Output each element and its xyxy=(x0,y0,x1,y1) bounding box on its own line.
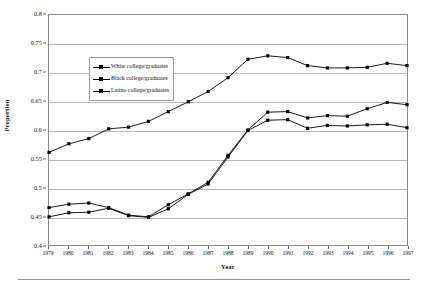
data-point-marker xyxy=(47,215,50,218)
x-axis-tick-label: 1981 xyxy=(82,251,93,257)
series-latino xyxy=(47,101,408,219)
x-axis-tick-label: 1992 xyxy=(302,251,313,257)
data-point-marker xyxy=(67,211,70,214)
x-axis-tick-mark xyxy=(188,246,189,249)
y-axis-tick-label: 0.5 xyxy=(34,185,42,191)
data-point-marker xyxy=(306,64,309,67)
x-axis-tick-mark xyxy=(208,246,209,249)
plot-area: White college/graduates Black college/gr… xyxy=(48,14,408,246)
legend-item-black: Black college/graduates xyxy=(93,73,169,85)
data-point-marker xyxy=(67,203,70,206)
data-point-marker xyxy=(346,115,349,118)
data-point-marker xyxy=(107,127,110,130)
x-axis-tick-label: 1985 xyxy=(162,251,173,257)
x-axis-tick-mark xyxy=(128,246,129,249)
data-point-marker xyxy=(286,118,289,121)
data-point-marker xyxy=(266,111,269,114)
y-axis-tick-label: 0.45 xyxy=(31,214,42,220)
x-axis-tick-mark xyxy=(348,246,349,249)
data-point-marker xyxy=(405,64,408,67)
data-point-marker xyxy=(246,58,249,61)
data-point-marker xyxy=(366,123,369,126)
data-point-marker xyxy=(226,76,229,79)
data-point-marker xyxy=(405,126,408,129)
legend-item-white: White college/graduates xyxy=(93,61,169,73)
legend-label: Black college/graduates xyxy=(110,76,167,82)
series-line xyxy=(49,120,407,218)
y-axis-tick-label: 0.6 xyxy=(34,127,42,133)
x-axis-tick-label: 1984 xyxy=(142,251,153,257)
x-axis-tick-group: 1979198019811982198319841985198619871988… xyxy=(48,246,408,262)
x-axis-tick-mark xyxy=(48,246,49,249)
y-axis-tick-mark xyxy=(43,130,46,131)
y-axis-tick-label: 0.4 xyxy=(34,243,42,249)
x-axis-tick-mark xyxy=(168,246,169,249)
y-axis-tick-label: 0.8 xyxy=(34,11,42,17)
data-point-marker xyxy=(246,128,249,131)
series-black xyxy=(47,118,408,219)
data-point-marker xyxy=(107,206,110,209)
chart-figure: Proportion 0.40.450.50.550.60.650.70.750… xyxy=(0,0,425,289)
y-axis-tick-group: 0.40.450.50.550.60.650.70.750.8 xyxy=(0,14,46,246)
data-point-marker xyxy=(67,142,70,145)
data-point-marker xyxy=(127,214,130,217)
x-axis-tick-mark xyxy=(328,246,329,249)
x-axis-tick-label: 1982 xyxy=(102,251,113,257)
series-line xyxy=(49,102,407,216)
x-axis-tick-label: 1983 xyxy=(122,251,133,257)
x-axis-tick-mark xyxy=(88,246,89,249)
y-axis-tick-mark xyxy=(43,188,46,189)
data-point-marker xyxy=(87,211,90,214)
data-point-marker xyxy=(47,206,50,209)
legend-marker-icon xyxy=(93,75,110,84)
data-point-marker xyxy=(306,127,309,130)
x-axis-tick-mark xyxy=(68,246,69,249)
legend-marker-icon xyxy=(93,63,110,72)
data-point-marker xyxy=(87,137,90,140)
x-axis-tick-mark xyxy=(388,246,389,249)
x-axis-tick-label: 1994 xyxy=(342,251,353,257)
data-point-marker xyxy=(266,119,269,122)
x-axis-tick-mark xyxy=(288,246,289,249)
x-axis-tick-label: 1997 xyxy=(402,251,413,257)
y-axis-tick-mark xyxy=(43,43,46,44)
y-axis-tick-mark xyxy=(43,72,46,73)
data-point-marker xyxy=(187,100,190,103)
x-axis-tick-mark xyxy=(408,246,409,249)
footer-rule xyxy=(18,279,410,280)
x-axis-tick-label: 1987 xyxy=(202,251,213,257)
series-layer xyxy=(49,15,407,245)
y-axis-tick-label: 0.75 xyxy=(31,40,42,46)
legend-label: White college/graduates xyxy=(110,64,168,70)
x-axis-tick-label: 1990 xyxy=(262,251,273,257)
data-point-marker xyxy=(366,66,369,69)
y-axis-tick-mark xyxy=(43,14,46,15)
y-axis-tick-mark xyxy=(43,217,46,218)
data-point-marker xyxy=(147,215,150,218)
y-axis-tick-label: 0.65 xyxy=(31,98,42,104)
x-axis-tick-label: 1980 xyxy=(62,251,73,257)
data-point-marker xyxy=(127,126,130,129)
x-axis-tick-mark xyxy=(228,246,229,249)
x-axis-tick-label: 1988 xyxy=(222,251,233,257)
data-point-marker xyxy=(326,124,329,127)
data-point-marker xyxy=(207,181,210,184)
data-point-marker xyxy=(366,107,369,110)
data-point-marker xyxy=(167,203,170,206)
legend-label: Latino college/graduates xyxy=(110,88,169,94)
y-axis-tick-mark xyxy=(43,246,46,247)
x-axis-tick-mark xyxy=(148,246,149,249)
data-point-marker xyxy=(286,56,289,59)
y-axis-tick-mark xyxy=(43,101,46,102)
data-point-marker xyxy=(207,90,210,93)
x-axis-tick-mark xyxy=(368,246,369,249)
x-axis-title: Year xyxy=(48,263,408,270)
x-axis-tick-mark xyxy=(308,246,309,249)
data-point-marker xyxy=(346,66,349,69)
data-point-marker xyxy=(266,54,269,57)
legend-marker-icon xyxy=(93,87,110,96)
data-point-marker xyxy=(286,110,289,113)
data-point-marker xyxy=(346,124,349,127)
data-point-marker xyxy=(326,66,329,69)
y-axis-tick-label: 0.7 xyxy=(34,69,42,75)
